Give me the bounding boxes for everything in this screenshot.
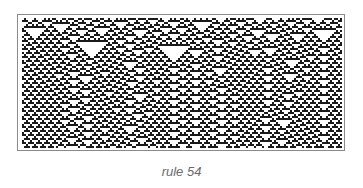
figure-caption: rule 54 <box>0 164 363 179</box>
cellular-automaton-pattern <box>22 18 342 148</box>
automaton-frame <box>17 14 345 151</box>
